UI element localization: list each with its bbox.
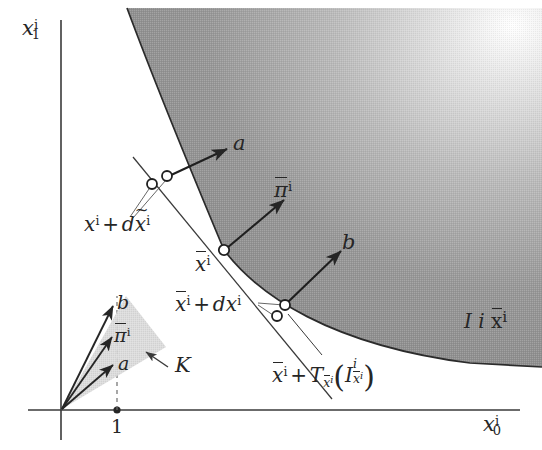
math-figure (0, 0, 542, 450)
cone-label-pi: πi (114, 326, 131, 345)
cone-label-b: b (117, 293, 129, 312)
x-axis-label-sub: 0 (493, 423, 502, 438)
point-x-plus-dxtilde-a (147, 179, 157, 189)
point-label-xbar-sup: i (206, 253, 210, 268)
point-label-xbar-base: x (195, 254, 206, 274)
vector-label-a: a (233, 133, 246, 154)
region-label-sup: i (478, 309, 484, 333)
vector-label-pi-glyph: π (274, 180, 288, 201)
recession-cone (62, 296, 166, 409)
label-x-plus-dxtilde: xi+dxi x^i + d~x^i (84, 214, 150, 234)
point-label-xbar: xi (195, 254, 210, 274)
point-xbar-plus-dx-a (280, 300, 290, 310)
label-xbar-plus-dx: xi+dxi xbar^i + dx^i (175, 294, 241, 314)
cone-label-a-text: a (118, 352, 129, 374)
point-xbar-plus-dx-b (272, 311, 282, 321)
region-label-sub-base: x (491, 311, 502, 331)
region-label-sub-sup: i (502, 308, 507, 326)
point-xbar (219, 245, 229, 255)
y-axis-label: xi1 (22, 18, 40, 41)
unit-tick-label: 1 (111, 417, 123, 436)
cone-label-a: a (118, 354, 129, 373)
vector-label-pi-bar: πi (274, 180, 292, 201)
cone-label-pointer (146, 352, 168, 367)
cone-label-pi-glyph: π (114, 326, 127, 345)
region-label-indices: i xi (472, 309, 507, 333)
region-label-base: I (464, 311, 472, 331)
vector-label-pi-sup: i (288, 179, 292, 194)
unit-tick-value: 1 (111, 415, 123, 437)
cone-label-b-text: b (117, 291, 129, 313)
label-tangent-set: xi+T xi (I i xi ) xbar^i + T_xbar^i ( I^… (272, 358, 375, 392)
x-axis-label: xi0 (483, 414, 501, 437)
vector-label-b-text: b (342, 230, 355, 254)
region-label: I i xi (464, 310, 507, 331)
cone-label-pi-sup: i (127, 325, 131, 339)
cone-label-K-text: K (175, 353, 191, 377)
cone-label-K: K (175, 355, 191, 376)
point-x-plus-dxtilde-b (162, 171, 172, 181)
vector-label-a-text: a (233, 131, 246, 155)
vector-label-b: b (342, 232, 355, 253)
y-axis-label-sub: 1 (32, 27, 41, 42)
